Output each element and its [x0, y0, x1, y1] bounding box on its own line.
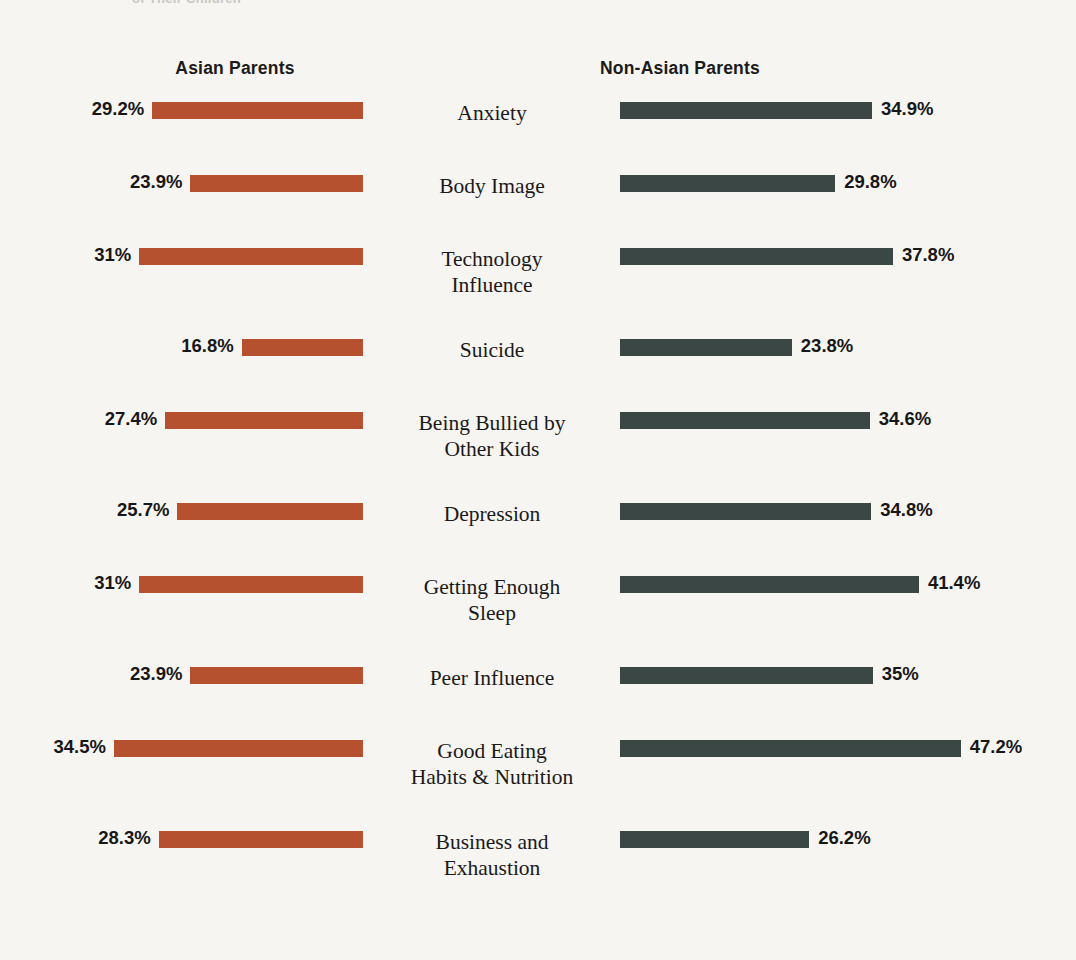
chart-row: 16.8%Suicide23.8%	[0, 337, 1076, 410]
category-label-line: Peer Influence	[372, 665, 612, 691]
asian-parents-bar	[177, 503, 363, 520]
category-label-line: Suicide	[372, 337, 612, 363]
category-label-line: Technology	[372, 246, 612, 272]
category-label: Getting EnoughSleep	[372, 574, 612, 626]
category-label-line: Body Image	[372, 173, 612, 199]
chart-row: 27.4%Being Bullied byOther Kids34.6%	[0, 410, 1076, 501]
non-asian-parents-bar-group: 26.2%	[620, 829, 871, 848]
comparison-bar-chart: of Their Children Asian Parents Non-Asia…	[0, 0, 1076, 960]
asian-parents-value-label: 29.2%	[92, 100, 144, 119]
category-label: Depression	[372, 501, 612, 527]
asian-parents-bar-group: 25.7%	[0, 501, 363, 574]
asian-parents-bar	[242, 339, 363, 356]
non-asian-parents-bar	[620, 503, 871, 520]
asian-parents-value-label: 28.3%	[98, 829, 150, 848]
non-asian-parents-bar-group: 34.9%	[620, 100, 933, 119]
category-label-line: Anxiety	[372, 100, 612, 126]
asian-parents-bar-group: 16.8%	[0, 337, 363, 410]
clipped-top-title: of Their Children	[132, 0, 241, 6]
non-asian-parents-bar	[620, 831, 809, 848]
non-asian-parents-bar-group: 34.8%	[620, 501, 933, 520]
category-label: Body Image	[372, 173, 612, 199]
asian-parents-bar	[139, 248, 363, 265]
non-asian-parents-bar-group: 29.8%	[620, 173, 897, 192]
asian-parents-bar-group: 23.9%	[0, 173, 363, 246]
chart-row: 28.3%Business andExhaustion26.2%	[0, 829, 1076, 920]
asian-parents-bar	[152, 102, 363, 119]
category-label-line: Depression	[372, 501, 612, 527]
asian-parents-value-label: 34.5%	[53, 738, 105, 757]
non-asian-parents-value-label: 29.8%	[844, 173, 896, 192]
category-label-line: Sleep	[372, 600, 612, 626]
category-label: Peer Influence	[372, 665, 612, 691]
non-asian-parents-value-label: 47.2%	[970, 738, 1022, 757]
category-label: Suicide	[372, 337, 612, 363]
non-asian-parents-bar	[620, 576, 919, 593]
asian-parents-bar-group: 23.9%	[0, 665, 363, 738]
non-asian-parents-bar	[620, 740, 961, 757]
asian-parents-value-label: 27.4%	[105, 410, 157, 429]
non-asian-parents-bar-group: 41.4%	[620, 574, 980, 593]
category-label: Good EatingHabits & Nutrition	[372, 738, 612, 790]
non-asian-parents-value-label: 41.4%	[928, 574, 980, 593]
asian-parents-bar-group: 29.2%	[0, 100, 363, 173]
asian-parents-bar	[190, 667, 363, 684]
category-label-line: Good Eating	[372, 738, 612, 764]
non-asian-parents-value-label: 34.8%	[880, 501, 932, 520]
asian-parents-bar-group: 27.4%	[0, 410, 363, 501]
asian-parents-bar-group: 31%	[0, 574, 363, 665]
non-asian-parents-bar-group: 23.8%	[620, 337, 853, 356]
chart-row: 29.2%Anxiety34.9%	[0, 100, 1076, 173]
category-label-line: Exhaustion	[372, 855, 612, 881]
non-asian-parents-value-label: 34.9%	[881, 100, 933, 119]
chart-row: 25.7%Depression34.8%	[0, 501, 1076, 574]
column-header-asian-parents: Asian Parents	[0, 58, 470, 79]
asian-parents-bar-group: 34.5%	[0, 738, 363, 829]
asian-parents-bar	[190, 175, 363, 192]
chart-row: 34.5%Good EatingHabits & Nutrition47.2%	[0, 738, 1076, 829]
category-label: Business andExhaustion	[372, 829, 612, 881]
category-label-line: Other Kids	[372, 436, 612, 462]
asian-parents-bar	[165, 412, 363, 429]
asian-parents-bar	[139, 576, 363, 593]
non-asian-parents-bar-group: 47.2%	[620, 738, 1022, 757]
column-header-non-asian-parents: Non-Asian Parents	[600, 58, 930, 79]
asian-parents-value-label: 31%	[94, 246, 131, 265]
non-asian-parents-value-label: 37.8%	[902, 246, 954, 265]
asian-parents-value-label: 31%	[94, 574, 131, 593]
chart-row: 31%TechnologyInfluence37.8%	[0, 246, 1076, 337]
category-label: Anxiety	[372, 100, 612, 126]
non-asian-parents-bar	[620, 248, 893, 265]
category-label-line: Business and	[372, 829, 612, 855]
non-asian-parents-value-label: 34.6%	[879, 410, 931, 429]
asian-parents-value-label: 25.7%	[117, 501, 169, 520]
asian-parents-bar	[114, 740, 363, 757]
asian-parents-value-label: 23.9%	[130, 173, 182, 192]
asian-parents-value-label: 23.9%	[130, 665, 182, 684]
category-label: Being Bullied byOther Kids	[372, 410, 612, 462]
asian-parents-bar-group: 28.3%	[0, 829, 363, 920]
non-asian-parents-bar-group: 34.6%	[620, 410, 931, 429]
chart-row: 31%Getting EnoughSleep41.4%	[0, 574, 1076, 665]
non-asian-parents-bar	[620, 339, 792, 356]
non-asian-parents-value-label: 23.8%	[801, 337, 853, 356]
category-label-line: Being Bullied by	[372, 410, 612, 436]
non-asian-parents-bar	[620, 102, 872, 119]
chart-rows: 29.2%Anxiety34.9%23.9%Body Image29.8%31%…	[0, 100, 1076, 920]
asian-parents-value-label: 16.8%	[181, 337, 233, 356]
non-asian-parents-bar	[620, 175, 835, 192]
category-label-line: Habits & Nutrition	[372, 764, 612, 790]
non-asian-parents-bar	[620, 412, 870, 429]
non-asian-parents-value-label: 26.2%	[818, 829, 870, 848]
category-label-line: Influence	[372, 272, 612, 298]
non-asian-parents-bar	[620, 667, 873, 684]
asian-parents-bar	[159, 831, 363, 848]
non-asian-parents-bar-group: 35%	[620, 665, 919, 684]
chart-row: 23.9%Peer Influence35%	[0, 665, 1076, 738]
non-asian-parents-value-label: 35%	[882, 665, 919, 684]
asian-parents-bar-group: 31%	[0, 246, 363, 337]
category-label: TechnologyInfluence	[372, 246, 612, 298]
non-asian-parents-bar-group: 37.8%	[620, 246, 954, 265]
category-label-line: Getting Enough	[372, 574, 612, 600]
chart-row: 23.9%Body Image29.8%	[0, 173, 1076, 246]
